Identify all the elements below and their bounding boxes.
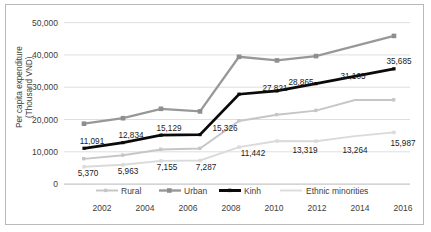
data-label-kinh: 15,326	[212, 124, 237, 133]
data-label-ethnic: 11,442	[241, 149, 266, 158]
legend-marker-urban-point	[167, 188, 172, 193]
legend-marker-rural-point	[104, 189, 107, 192]
data-label-kinh: 27,821	[262, 84, 287, 93]
legend-label-kinh: Kinh	[244, 186, 261, 196]
y-tick-label: 50,000	[32, 18, 58, 28]
x-tick-label: 2002	[93, 203, 112, 213]
y-axis-title: Per capita expenditure (Thousand VND)	[15, 46, 34, 128]
legend-label-ethnic: Ethnic minorities	[306, 186, 368, 196]
y-tick-label: 10,000	[32, 147, 58, 157]
data-label-ethnic: 13,319	[292, 146, 317, 155]
chart-legend: Rural Urban Kinh Ethnic minorities	[96, 186, 368, 196]
data-label-ethnic: 13,264	[342, 146, 367, 155]
data-label-kinh: 28,865	[288, 78, 313, 87]
x-tick-label: 2006	[179, 203, 198, 213]
y-axis-ticks: 50,000 40,000 30,000 20,000 10,000 0	[32, 18, 58, 190]
x-tick-label: 2004	[136, 203, 155, 213]
y-axis-title-line2: (Thousand VND)	[25, 56, 34, 118]
ethnic-data-labels: 5,370 5,963 7,155 7,287 11,442 13,319 13…	[78, 139, 416, 178]
x-tick-label: 2016	[394, 203, 413, 213]
x-tick-label: 2014	[351, 203, 370, 213]
data-label-ethnic: 7,287	[196, 163, 217, 172]
y-tick-label: 40,000	[32, 50, 58, 60]
chart-screenshot: 50,000 40,000 30,000 20,000 10,000 0 Per…	[0, 0, 431, 232]
data-label-ethnic: 5,963	[118, 167, 139, 176]
gridlines	[64, 23, 410, 185]
data-label-kinh: 31,105	[340, 72, 365, 81]
legend-label-rural: Rural	[121, 186, 141, 196]
y-tick-label: 0	[53, 179, 58, 189]
data-label-ethnic: 5,370	[78, 169, 99, 178]
data-label-ethnic: 15,987	[390, 139, 415, 148]
y-axis-title-line1: Per capita expenditure	[15, 46, 24, 128]
y-tick-label: 20,000	[32, 115, 58, 125]
legend-marker-kinh-point	[228, 189, 231, 192]
x-tick-label: 2008	[222, 203, 241, 213]
kinh-data-labels: 11,091 12,834 15,129 15,326 27,821 28,86…	[80, 57, 412, 146]
data-label-ethnic: 7,155	[157, 163, 178, 172]
data-label-kinh: 35,685	[386, 57, 411, 66]
data-label-kinh: 15,129	[156, 124, 181, 133]
data-label-kinh: 11,091	[80, 137, 105, 146]
x-tick-label: 2012	[308, 203, 327, 213]
x-tick-label: 2010	[265, 203, 284, 213]
x-axis-ticks: 2002 2004 2006 2008 2010 2012 2014 2016	[93, 203, 413, 213]
y-tick-label: 30,000	[32, 82, 58, 92]
data-label-kinh: 12,834	[118, 131, 143, 140]
legend-label-urban: Urban	[184, 186, 207, 196]
chart-canvas: 50,000 40,000 30,000 20,000 10,000 0 Per…	[0, 0, 431, 232]
